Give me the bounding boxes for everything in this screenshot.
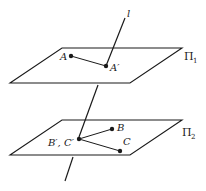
point-b <box>110 127 114 131</box>
point-a <box>69 54 73 58</box>
line-l-label: l <box>127 8 130 19</box>
point-c <box>118 149 122 153</box>
segment-a-aprime <box>71 56 106 66</box>
segment-bprime-b <box>79 129 112 139</box>
plane-pi2-subscript: 2 <box>191 133 195 141</box>
point-c-label: C <box>123 136 131 147</box>
point-a-prime <box>104 64 108 68</box>
line-l-upper <box>106 18 125 66</box>
point-bprime-cprime-label: B′, C′ <box>47 137 75 148</box>
plane-pi1-subscript: 1 <box>193 57 197 65</box>
point-b-label: B <box>116 122 124 133</box>
point-bprime-cprime <box>77 137 81 141</box>
point-a-prime-label: A′ <box>109 62 120 73</box>
plane-pi2 <box>10 120 182 155</box>
projection-diagram: l Π 1 A A′ Π 2 B C B′, C′ <box>0 0 206 191</box>
plane-pi1 <box>10 48 182 83</box>
line-l-lower <box>65 157 73 181</box>
point-a-label: A <box>59 51 67 62</box>
line-l-middle <box>79 85 98 137</box>
segment-cprime-c <box>79 139 120 151</box>
